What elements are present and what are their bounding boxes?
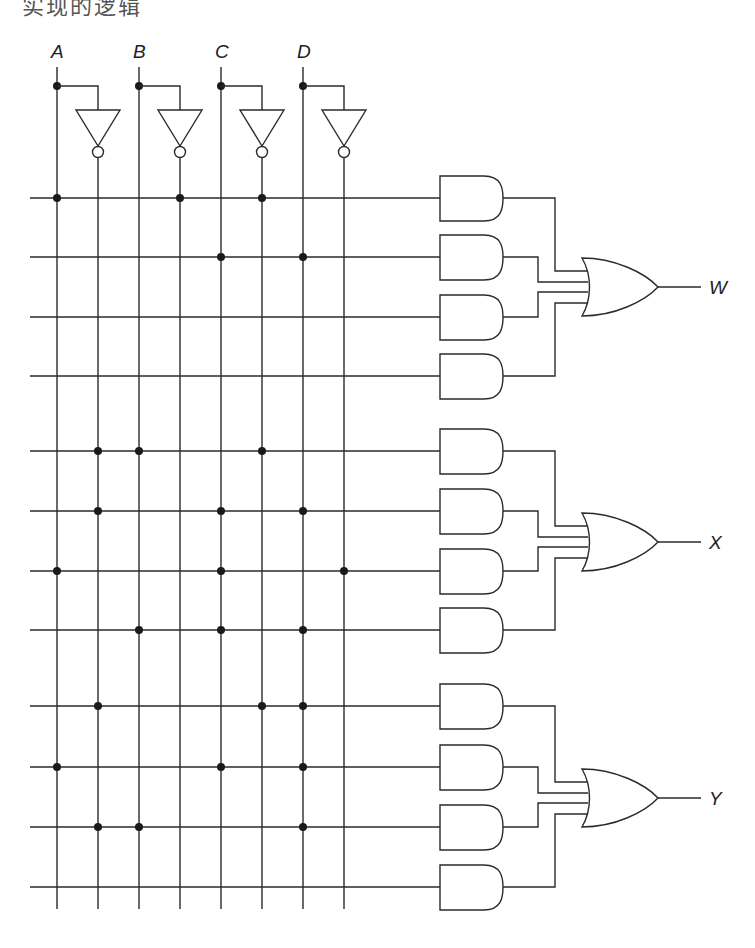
connection-dot bbox=[53, 194, 61, 202]
or-input-wire bbox=[503, 303, 588, 376]
connection-dot bbox=[258, 702, 266, 710]
inversion-bubble-icon bbox=[257, 147, 268, 158]
connection-dot bbox=[299, 702, 307, 710]
connection-dot bbox=[299, 823, 307, 831]
or-gate-icon bbox=[582, 769, 658, 827]
inversion-bubble-icon bbox=[175, 147, 186, 158]
inverter-feed-wire bbox=[57, 86, 98, 110]
and-gate-icon bbox=[440, 549, 503, 594]
or-input-wire bbox=[503, 706, 588, 782]
connection-dot bbox=[176, 194, 184, 202]
and-gate-icon bbox=[440, 805, 503, 850]
connection-dot bbox=[53, 763, 61, 771]
not-gate-icon bbox=[158, 110, 202, 146]
inversion-bubble-icon bbox=[93, 147, 104, 158]
or-input-wire bbox=[503, 803, 588, 827]
input-label-c: C bbox=[215, 41, 229, 62]
product-term-rows bbox=[30, 198, 440, 887]
connection-dot bbox=[258, 447, 266, 455]
inversion-bubble-icon bbox=[339, 147, 350, 158]
or-input-wire bbox=[503, 451, 588, 526]
or-input-wire bbox=[503, 558, 588, 630]
or-input-wire bbox=[503, 547, 588, 571]
connection-dot bbox=[94, 507, 102, 515]
and-gate-icon bbox=[440, 235, 503, 280]
or-input-wire bbox=[503, 814, 588, 887]
connection-dot bbox=[299, 507, 307, 515]
connection-dot bbox=[94, 447, 102, 455]
or-input-wire bbox=[503, 257, 588, 282]
and-gate-icon bbox=[440, 745, 503, 790]
output-label-w: W bbox=[709, 277, 729, 298]
connection-dot bbox=[340, 567, 348, 575]
input-section: ABCD bbox=[50, 41, 366, 909]
connection-dot bbox=[258, 194, 266, 202]
or-gate-icon bbox=[582, 258, 658, 316]
or-input-wire bbox=[503, 767, 588, 793]
connection-dot bbox=[217, 507, 225, 515]
connection-dot bbox=[94, 823, 102, 831]
connection-dot bbox=[135, 823, 143, 831]
and-gate-icon bbox=[440, 295, 503, 340]
input-label-b: B bbox=[133, 41, 146, 62]
gate-section: WXY bbox=[440, 176, 729, 910]
inverter-feed-wire bbox=[303, 86, 344, 110]
and-gate-icon bbox=[440, 608, 503, 653]
connection-dot bbox=[217, 626, 225, 634]
and-gate-icon bbox=[440, 865, 503, 910]
connection-dot bbox=[217, 763, 225, 771]
input-label-d: D bbox=[297, 41, 311, 62]
output-label-y: Y bbox=[709, 788, 723, 809]
or-input-wire bbox=[503, 511, 588, 537]
pla-circuit-diagram: ABCD WXY bbox=[0, 0, 755, 948]
connection-dots bbox=[53, 194, 348, 831]
inverter-feed-wire bbox=[139, 86, 180, 110]
connection-dot bbox=[299, 253, 307, 261]
connection-dot bbox=[135, 447, 143, 455]
connection-dot bbox=[94, 702, 102, 710]
connection-dot bbox=[299, 626, 307, 634]
or-input-wire bbox=[503, 198, 588, 271]
connection-dot bbox=[217, 567, 225, 575]
not-gate-icon bbox=[240, 110, 284, 146]
and-gate-icon bbox=[440, 429, 503, 474]
not-gate-icon bbox=[322, 110, 366, 146]
and-gate-icon bbox=[440, 354, 503, 399]
not-gate-icon bbox=[76, 110, 120, 146]
and-gate-icon bbox=[440, 176, 503, 221]
connection-dot bbox=[299, 763, 307, 771]
and-gate-icon bbox=[440, 489, 503, 534]
or-gate-icon bbox=[582, 513, 658, 571]
connection-dot bbox=[135, 626, 143, 634]
output-label-x: X bbox=[708, 532, 723, 553]
or-input-wire bbox=[503, 292, 588, 317]
input-label-a: A bbox=[50, 41, 64, 62]
and-gate-icon bbox=[440, 684, 503, 729]
connection-dot bbox=[217, 253, 225, 261]
connection-dot bbox=[53, 567, 61, 575]
inverter-feed-wire bbox=[221, 86, 262, 110]
